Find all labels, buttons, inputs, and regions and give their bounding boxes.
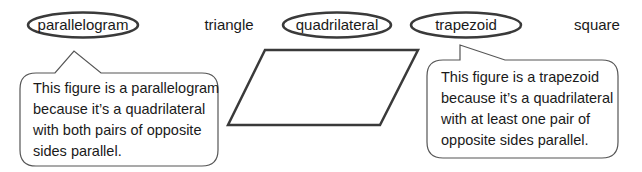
word-triangle: triangle: [204, 16, 253, 34]
callout-right-line: This figure is a trapezoid: [441, 67, 613, 88]
callout-left-line: sides parallel.: [33, 141, 219, 162]
word-trapezoid: trapezoid: [435, 16, 497, 34]
callout-left-line: because it’s a quadrilateral: [33, 99, 219, 120]
callout-right-line: opposite sides parallel.: [441, 130, 613, 151]
word-square: square: [574, 16, 620, 34]
callout-right-line: because it’s a quadrilateral: [441, 88, 613, 109]
parallelogram-figure: [228, 50, 418, 125]
callout-left-text: This figure is a parallelogram because i…: [33, 78, 219, 162]
callout-left-line: with both pairs of opposite: [33, 120, 219, 141]
word-quadrilateral: quadrilateral: [296, 16, 379, 34]
callout-left-line: This figure is a parallelogram: [33, 78, 219, 99]
word-parallelogram: parallelogram: [38, 16, 129, 34]
callout-right-text: This figure is a trapezoid because it’s …: [441, 67, 613, 151]
callout-right-line: with at least one pair of: [441, 109, 613, 130]
